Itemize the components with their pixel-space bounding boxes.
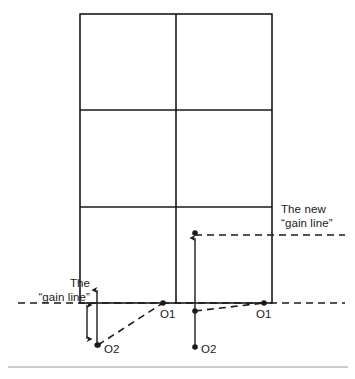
left-o2-label: O2: [104, 343, 119, 355]
new-gain-line-label-line2: “gain line”: [281, 216, 333, 230]
right-up-arrow: [192, 230, 198, 350]
left-o1-label: O1: [160, 308, 175, 320]
right-run-dashed: [195, 303, 264, 311]
gain-line-label-line2: “gain line”: [12, 290, 90, 304]
right-o1-label: O1: [256, 308, 271, 320]
right-o2-label: O2: [201, 343, 216, 355]
left-o2-marker: [95, 342, 101, 348]
gain-line-label-line1: The: [12, 276, 90, 290]
pitch-grid: [80, 14, 272, 303]
new-gain-line-label-line1: The new: [281, 202, 333, 216]
gain-line-label: The “gain line”: [12, 276, 90, 304]
left-run-dashed: [98, 303, 163, 345]
left-o1-marker: [160, 300, 166, 306]
diagram-canvas: [0, 0, 355, 379]
diagram-root: The “gain line” The new “gain line” O1 O…: [0, 0, 355, 379]
left-up-arrow: [94, 290, 99, 348]
right-o1-marker: [261, 300, 267, 306]
new-gain-line-label: The new “gain line”: [281, 202, 333, 230]
